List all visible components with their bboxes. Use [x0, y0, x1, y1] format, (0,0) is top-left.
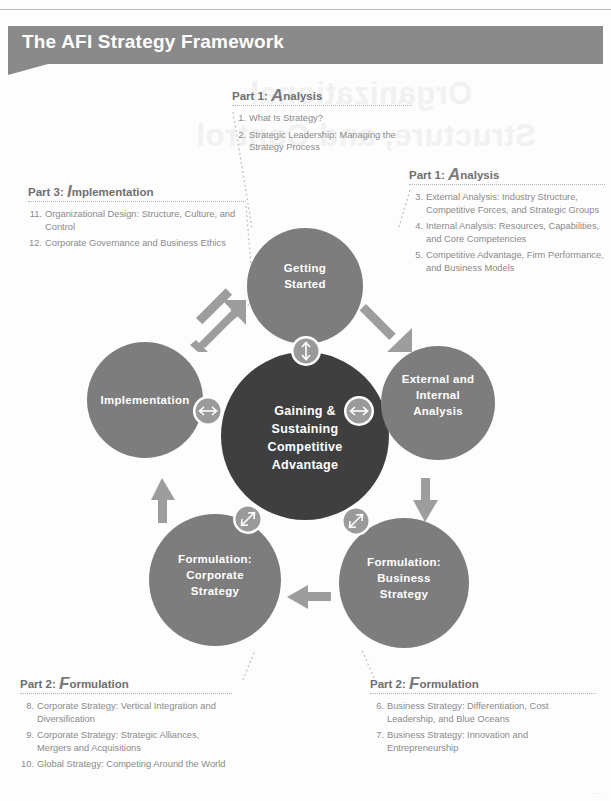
item-text: Strategic Leadership: Managing the Strat…: [249, 130, 396, 153]
callout-divider: [28, 201, 246, 202]
list-item: 1.What Is Strategy?: [232, 112, 412, 125]
item-text: External Analysis: Industry Structure, C…: [426, 192, 599, 215]
list-item: 3.External Analysis: Industry Structure,…: [409, 191, 605, 216]
badge-bottom-left[interactable]: [233, 504, 263, 534]
label-implementation-0: Implementation: [100, 394, 189, 406]
callout-word: ormulation: [419, 678, 478, 690]
callout-word: nalysis: [460, 169, 499, 181]
list-item: 4.Internal Analysis: Resources, Capabili…: [409, 220, 605, 245]
core-label-3: Advantage: [272, 458, 339, 472]
badge-left[interactable]: [193, 396, 223, 426]
item-number: 4.: [409, 220, 423, 233]
label-external-1: Internal: [416, 389, 460, 401]
label-corporate-1: Corporate: [186, 569, 244, 581]
arrow-down-right-icon: [360, 304, 412, 352]
callout-heading: Part 3: Implementation: [28, 186, 246, 198]
callout-list: 3.External Analysis: Industry Structure,…: [409, 191, 605, 275]
callout-list: 6.Business Strategy: Differentiation, Co…: [370, 700, 596, 754]
callout-heading: Part 2: Formulation: [20, 678, 232, 690]
callout-divider: [370, 693, 596, 694]
badge-right[interactable]: [344, 396, 374, 426]
callout-divider: [232, 105, 412, 106]
arrow-left-icon: [287, 585, 331, 609]
callout-word: mplementation: [72, 186, 154, 198]
item-text: Business Strategy: Innovation and Entrep…: [387, 730, 528, 753]
item-text: Organizational Design: Structure, Cultur…: [45, 209, 235, 232]
callout-part1-right: Part 1: Analysis 3.External Analysis: In…: [409, 169, 605, 279]
core-label-0: Gaining &: [274, 404, 336, 418]
label-business-2: Strategy: [380, 588, 429, 600]
callout-divider: [409, 184, 605, 185]
badge-bottom-right[interactable]: [341, 506, 371, 536]
label-external-2: Analysis: [413, 405, 463, 417]
item-number: 7.: [370, 729, 384, 742]
list-item: 6.Business Strategy: Differentiation, Co…: [370, 700, 596, 725]
item-text: Internal Analysis: Resources, Capabiliti…: [426, 221, 599, 244]
item-number: 3.: [409, 191, 423, 204]
callout-part1-top: Part 1: Analysis 1.What Is Strategy? 2.S…: [232, 90, 412, 158]
callout-part-label: Part 1:: [232, 90, 268, 102]
callout-part2-left: Part 2: Formulation 8.Corporate Strategy…: [20, 678, 232, 775]
callout-heading: Part 2: Formulation: [370, 678, 596, 690]
callout-list: 11.Organizational Design: Structure, Cul…: [28, 208, 246, 250]
arrow-down-icon: [413, 478, 438, 522]
callout-part-label: Part 1:: [409, 169, 445, 181]
list-item: 11.Organizational Design: Structure, Cul…: [28, 208, 246, 233]
core-label-1: Sustaining: [272, 422, 339, 436]
callout-heading: Part 1: Analysis: [409, 169, 605, 181]
list-item: 2.Strategic Leadership: Managing the Str…: [232, 129, 412, 154]
list-item: 7.Business Strategy: Innovation and Entr…: [370, 729, 596, 754]
page-marker: ···: [592, 790, 605, 797]
item-number: 5.: [409, 249, 423, 262]
list-item: 9.Corporate Strategy: Strategic Alliance…: [20, 729, 232, 754]
callout-initial: A: [271, 86, 283, 105]
item-text: Global Strategy: Competing Around the Wo…: [37, 759, 225, 769]
item-number: 6.: [370, 700, 384, 713]
label-getting-started-1: Started: [284, 278, 326, 290]
label-corporate-2: Strategy: [191, 585, 240, 597]
item-text: Corporate Strategy: Strategic Alliances,…: [37, 730, 199, 753]
label-business-0: Formulation:: [367, 556, 441, 568]
callout-divider: [20, 693, 232, 694]
figure-page: Organizational Structure, and Control Th…: [0, 0, 611, 801]
arrow-up-icon: [151, 478, 175, 523]
core-label-2: Competitive: [268, 440, 343, 454]
list-item: 12.Corporate Governance and Business Eth…: [28, 237, 246, 250]
callout-part-label: Part 2:: [20, 678, 56, 690]
callout-heading: Part 1: Analysis: [232, 90, 412, 102]
callout-initial: A: [448, 165, 460, 184]
callout-part3-left: Part 3: Implementation 11.Organizational…: [28, 186, 246, 254]
callout-part2-right: Part 2: Formulation 6.Business Strategy:…: [370, 678, 596, 758]
callout-initial: F: [409, 674, 419, 693]
item-number: 12.: [28, 237, 42, 250]
item-text: Corporate Strategy: Vertical Integration…: [37, 701, 216, 724]
item-text: Competitive Advantage, Firm Performance,…: [426, 250, 604, 273]
list-item: 5.Competitive Advantage, Firm Performanc…: [409, 249, 605, 274]
callout-part-label: Part 3:: [28, 186, 64, 198]
label-getting-started-0: Getting: [284, 262, 326, 274]
item-number: 10.: [20, 758, 34, 771]
core-circle[interactable]: [221, 352, 389, 520]
item-number: 1.: [232, 112, 246, 125]
callout-part-label: Part 2:: [370, 678, 406, 690]
callout-word: nalysis: [283, 90, 322, 102]
callout-list: 8.Corporate Strategy: Vertical Integrati…: [20, 700, 232, 771]
list-item: 10.Global Strategy: Competing Around the…: [20, 758, 232, 771]
item-text: Business Strategy: Differentiation, Cost…: [387, 701, 549, 724]
callout-word: ormulation: [69, 678, 128, 690]
arrow-up-right-icon: [190, 288, 246, 352]
label-external-0: External and: [402, 373, 475, 385]
label-corporate-0: Formulation:: [178, 553, 252, 565]
list-item: 8.Corporate Strategy: Vertical Integrati…: [20, 700, 232, 725]
item-number: 9.: [20, 729, 34, 742]
node-external-internal[interactable]: [381, 346, 495, 460]
item-text: What Is Strategy?: [249, 113, 323, 123]
item-text: Corporate Governance and Business Ethics: [45, 238, 226, 248]
callout-initial: F: [59, 674, 69, 693]
item-number: 2.: [232, 129, 246, 142]
badge-top[interactable]: [291, 336, 321, 366]
item-number: 11.: [28, 208, 42, 221]
label-business-1: Business: [377, 572, 431, 584]
item-number: 8.: [20, 700, 34, 713]
callout-list: 1.What Is Strategy? 2.Strategic Leadersh…: [232, 112, 412, 154]
